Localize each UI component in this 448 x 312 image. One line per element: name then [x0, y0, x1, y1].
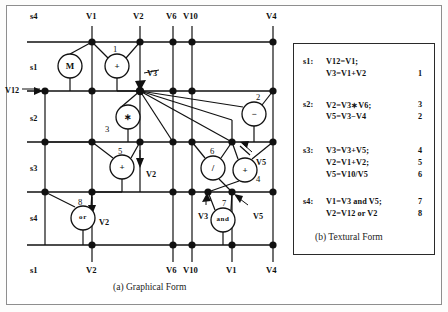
- bus-label-bottom: V1: [226, 265, 237, 275]
- textual-statement: V3=V1+V2: [326, 69, 366, 78]
- operation-glyph-op6: /: [201, 163, 225, 173]
- graph-diagram: [0, 0, 290, 312]
- operation-number-op3: 3: [105, 124, 109, 134]
- operation-number-op2: 2: [256, 92, 260, 102]
- arrow-heads: [34, 80, 249, 215]
- bus-label-bottom: V10: [183, 265, 198, 275]
- bus-label-bottom: V4: [266, 265, 277, 275]
- textual-statement-number: 6: [418, 170, 422, 179]
- textual-statement-number: 4: [418, 146, 422, 155]
- operation-number-op8: 8: [78, 197, 82, 207]
- textual-statement-number: 8: [418, 209, 422, 218]
- port-label: V12: [5, 86, 19, 95]
- textual-form-panel: s1:V12=V1;V3=V1+V21s2:V2=V3∗V6;3V5=V3−V4…: [293, 43, 435, 255]
- bus-label-top: V10: [183, 11, 198, 21]
- textual-statement-number: 5: [418, 158, 422, 167]
- textual-statement-number: 1: [418, 69, 422, 78]
- bus-label-bottom: V2: [86, 265, 97, 275]
- textual-statement-number: 7: [418, 197, 422, 206]
- textual-statement: V1=V3 and V5;: [326, 197, 382, 206]
- operation-number-op7: 7: [222, 198, 226, 208]
- bus-label-top: V2: [133, 11, 144, 21]
- operation-glyph-op7: and: [211, 215, 235, 223]
- operation-number-op6: 6: [210, 146, 214, 156]
- bus-label-top: V6: [166, 11, 177, 21]
- textual-block-label: s2:: [303, 100, 313, 109]
- port-label: V2: [146, 170, 156, 179]
- operation-glyph-op1: +: [105, 61, 129, 71]
- text-caption: (b) Textural Form: [315, 232, 383, 242]
- textual-statement-number: 2: [418, 112, 422, 121]
- step-row-label: s3: [30, 164, 37, 173]
- port-label: V3: [198, 212, 208, 221]
- bus-label-top: s4: [30, 11, 38, 21]
- operation-glyph-op8: or: [71, 213, 95, 221]
- operation-number-op5: 5: [118, 146, 122, 156]
- operation-number-op1: 1: [113, 44, 117, 54]
- textual-statement: V2=V1+V2;: [326, 158, 369, 167]
- textual-statement: V2=V3∗V6;: [326, 100, 371, 110]
- step-row-label: s4: [30, 214, 37, 223]
- port-label: V5: [256, 158, 266, 167]
- step-row-label: s2: [30, 114, 37, 123]
- textual-statement: V3=V3+V5;: [326, 146, 369, 155]
- operation-number-op4: 4: [256, 174, 260, 184]
- textual-statement: V5=V3−V4: [326, 112, 366, 121]
- operation-glyph-op2: −: [242, 109, 266, 119]
- operation-glyph-op4: +: [233, 165, 257, 175]
- figure-container: s4V1V2V6V10V4s1V2V6V10V1V4s1s2s3s4V12V3V…: [0, 0, 448, 312]
- textual-block-label: s1:: [303, 57, 313, 66]
- port-label: V5: [253, 212, 263, 221]
- graph-caption: (a) Graphical Form: [113, 282, 186, 292]
- bus-label-bottom: s1: [30, 265, 38, 275]
- operation-glyph-move: M: [58, 61, 82, 71]
- step-row-label: s1: [30, 63, 37, 72]
- textual-statement: V2=V12 or V2: [326, 209, 378, 218]
- textual-statement: V5=V10/V5: [326, 170, 368, 179]
- bus-label-bottom: V6: [166, 265, 177, 275]
- textual-statement: V12=V1;: [326, 57, 358, 66]
- textual-block-label: s3:: [303, 146, 313, 155]
- port-label: V2: [99, 218, 109, 227]
- textual-statement-number: 3: [418, 100, 422, 109]
- bus-label-top: V4: [266, 11, 277, 21]
- port-label: V3: [147, 69, 157, 78]
- operation-glyph-op5: +: [110, 162, 134, 172]
- operation-glyph-op3: ∗: [116, 112, 140, 122]
- bus-label-top: V1: [86, 11, 97, 21]
- textual-block-label: s4:: [303, 197, 313, 206]
- graphical-form-panel: s4V1V2V6V10V4s1V2V6V10V1V4s1s2s3s4V12V3V…: [0, 0, 290, 312]
